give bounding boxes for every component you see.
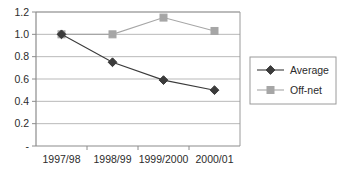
data-point-marker: [160, 14, 167, 21]
y-axis-tick-label: 0.4: [14, 95, 29, 107]
legend-label: Average: [290, 64, 329, 76]
x-axis-tick-label: 1999/2000: [139, 153, 189, 165]
y-axis-tick-label: 0.2: [14, 117, 29, 129]
x-axis-tick-labels: 1997/981998/991999/20002000/01: [43, 153, 234, 165]
y-axis-tick-label: 1.2: [14, 6, 29, 18]
x-axis-tick-label: 1998/99: [94, 153, 132, 165]
x-axis-ticks: [87, 146, 189, 150]
data-point-marker: [109, 31, 116, 38]
chart-canvas: -0.20.40.60.81.01.2 1997/981998/991999/2…: [0, 0, 342, 181]
data-point-marker: [267, 87, 274, 94]
y-axis-tick-label: 1.0: [14, 28, 29, 40]
chart-legend: AverageOff-net: [250, 57, 336, 104]
y-axis-tick-label: -: [26, 140, 30, 152]
legend-label: Off-net: [290, 84, 322, 96]
y-axis-tick-label: 0.8: [14, 50, 29, 62]
data-point-marker: [211, 27, 218, 34]
y-axis-tick-labels: -0.20.40.60.81.01.2: [14, 6, 29, 152]
x-axis-tick-label: 1997/98: [43, 153, 81, 165]
line-chart: -0.20.40.60.81.01.2 1997/981998/991999/2…: [0, 0, 342, 181]
y-axis-tick-label: 0.6: [14, 73, 29, 85]
x-axis-tick-label: 2000/01: [196, 153, 234, 165]
